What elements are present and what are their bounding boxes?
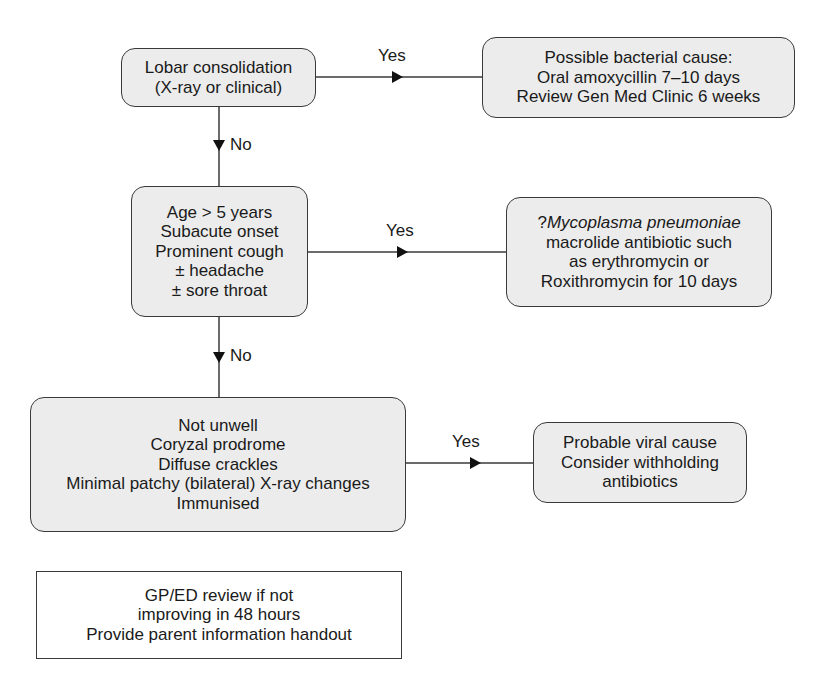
node-text: (X-ray or clinical) bbox=[155, 78, 283, 98]
node-text: Consider withholding bbox=[561, 453, 719, 473]
node-viral-criteria: Not unwell Coryzal prodrome Diffuse crac… bbox=[30, 397, 406, 532]
edge-label-no: No bbox=[230, 136, 252, 154]
node-text: Review Gen Med Clinic 6 weeks bbox=[517, 87, 761, 107]
node-text: Minimal patchy (bilateral) X-ray changes bbox=[66, 474, 369, 494]
node-text: Roxithromycin for 10 days bbox=[541, 272, 738, 292]
question-prefix: ? bbox=[537, 213, 546, 232]
arrow-down-icon bbox=[213, 352, 225, 363]
arrow-right-icon bbox=[470, 457, 481, 469]
node-text: improving in 48 hours bbox=[138, 605, 301, 625]
edge-label-no: No bbox=[230, 347, 252, 365]
node-text: Immunised bbox=[176, 494, 259, 514]
node-bacterial-cause: Possible bacterial cause: Oral amoxycill… bbox=[482, 37, 795, 118]
node-text: GP/ED review if not bbox=[145, 586, 293, 606]
node-text: antibiotics bbox=[602, 472, 678, 492]
node-text: Diffuse crackles bbox=[158, 455, 278, 475]
node-text: as erythromycin or bbox=[569, 252, 709, 272]
node-mycoplasma-treatment: ?Mycoplasma pneumoniae macrolide antibio… bbox=[506, 197, 772, 307]
node-text: Not unwell bbox=[178, 416, 257, 436]
node-viral-cause: Probable viral cause Consider withholdin… bbox=[533, 422, 747, 503]
node-text: Oral amoxycillin 7–10 days bbox=[537, 68, 740, 88]
organism-name: Mycoplasma pneumoniae bbox=[547, 213, 741, 232]
node-mycoplasma-criteria: Age > 5 years Subacute onset Prominent c… bbox=[131, 186, 308, 317]
node-text: Provide parent information handout bbox=[86, 625, 352, 645]
arrow-right-icon bbox=[397, 246, 408, 258]
edge-label-yes: Yes bbox=[452, 433, 480, 451]
node-text: Possible bacterial cause: bbox=[544, 48, 732, 68]
node-followup-note: GP/ED review if not improving in 48 hour… bbox=[36, 571, 402, 659]
node-text: ± headache bbox=[175, 261, 264, 281]
node-text: macrolide antibiotic such bbox=[546, 233, 732, 253]
node-text: Coryzal prodrome bbox=[150, 435, 285, 455]
edge-label-yes: Yes bbox=[386, 222, 414, 240]
node-text: ?Mycoplasma pneumoniae bbox=[537, 213, 740, 233]
edge-label-yes: Yes bbox=[378, 47, 406, 65]
node-text: ± sore throat bbox=[172, 281, 267, 301]
node-text: Age > 5 years bbox=[167, 203, 272, 223]
node-text: Lobar consolidation bbox=[145, 58, 292, 78]
node-text: Probable viral cause bbox=[563, 433, 717, 453]
arrow-down-icon bbox=[213, 140, 225, 151]
node-text: Subacute onset bbox=[160, 222, 278, 242]
arrow-right-icon bbox=[392, 71, 403, 83]
node-text: Prominent cough bbox=[155, 242, 284, 262]
node-lobar-consolidation: Lobar consolidation (X-ray or clinical) bbox=[121, 48, 316, 107]
